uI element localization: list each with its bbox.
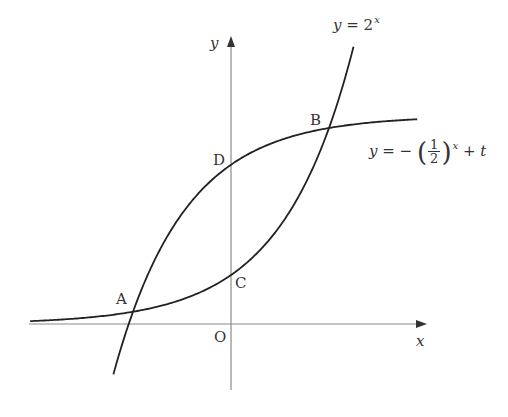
eq2-exp: x [453, 140, 459, 151]
eq2-tail: + t [463, 142, 486, 160]
origin-label: O [214, 330, 226, 345]
eq2-lhs: y = − [369, 142, 412, 160]
x-axis-arrow-icon [416, 320, 427, 328]
equation-label-half-x-plus-t: y = − (12)x + t [369, 138, 486, 165]
function-graph [0, 0, 508, 417]
y-axis-label: y [210, 36, 218, 51]
y-axis-arrow-icon [227, 36, 235, 47]
point-label-a: A [116, 292, 127, 307]
eq2-numerator: 1 [428, 138, 440, 152]
eq2-denominator: 2 [428, 152, 440, 165]
equation-label-2x: y = 2x [333, 18, 380, 33]
eq2-left-paren: ( [417, 137, 427, 167]
curve-y-equals-2-pow-x [30, 47, 353, 321]
eq1-exp: x [374, 14, 380, 25]
point-label-b: B [310, 113, 321, 128]
eq1-base: 2 [364, 16, 374, 34]
eq2-right-paren: ) [441, 137, 451, 167]
x-axis-label: x [416, 334, 424, 349]
point-label-d: D [213, 153, 225, 168]
eq1-lhs: y = [333, 16, 359, 34]
eq2-fraction: 12 [428, 138, 440, 165]
point-label-c: C [235, 276, 246, 291]
